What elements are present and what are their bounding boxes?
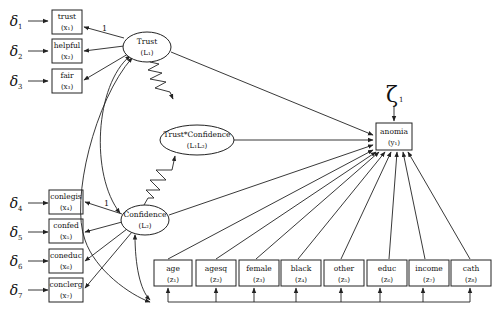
svg-text:Trust*Confidence: Trust*Confidence <box>164 130 231 139</box>
svg-text:(z₁): (z₁) <box>167 276 179 284</box>
covariate-agesq: agesq (z₂) <box>196 260 236 286</box>
path-trust-anomia <box>171 52 373 135</box>
path-other-anomia <box>341 152 391 259</box>
svg-text:3: 3 <box>18 83 22 91</box>
svg-text:trust: trust <box>58 12 76 21</box>
covariate-other: other (z₅) <box>324 260 364 286</box>
indicator-conlegis: conlegis (x₄) <box>49 190 83 214</box>
path-income-anomia <box>403 152 425 259</box>
svg-text:Trust: Trust <box>137 37 157 46</box>
svg-text:4: 4 <box>18 205 23 213</box>
indicator-confed: confed (x₅) <box>49 219 83 243</box>
svg-text:(x₁): (x₁) <box>61 24 73 32</box>
path-educ-anomia <box>389 152 397 259</box>
svg-text:(z₃): (z₃) <box>253 276 265 284</box>
svg-text:fair: fair <box>60 71 74 80</box>
svg-text:ζ: ζ <box>386 82 398 107</box>
svg-text:(L₁L₂): (L₁L₂) <box>187 142 208 150</box>
indicator-coneduc: coneduc (x₆) <box>49 249 83 273</box>
svg-text:income: income <box>415 264 443 273</box>
indicator-helpful: helpful (x₂) <box>52 39 82 63</box>
svg-text:5: 5 <box>18 234 22 242</box>
svg-text:1: 1 <box>18 23 22 31</box>
svg-text:female: female <box>246 264 272 273</box>
svg-text:(x₆): (x₆) <box>60 263 72 271</box>
covariate-black: black (z₄) <box>281 260 321 286</box>
indicator-trust: trust (x₁) <box>52 10 82 34</box>
svg-text:(x₂): (x₂) <box>61 53 73 61</box>
svg-text:1: 1 <box>399 96 403 104</box>
svg-text:cath: cath <box>463 264 480 273</box>
svg-text:δ: δ <box>10 195 18 211</box>
svg-text:7: 7 <box>18 292 22 300</box>
latent-trust-x-confidence: Trust*Confidence (L₁L₂) <box>160 125 234 155</box>
error-delta-4: δ 4 <box>10 195 48 213</box>
svg-text:anomia: anomia <box>380 127 408 136</box>
loading-fixed-1-trust: 1 <box>102 24 107 33</box>
svg-text:δ: δ <box>10 73 18 89</box>
svg-text:δ: δ <box>10 43 18 59</box>
svg-text:δ: δ <box>10 253 18 269</box>
svg-text:δ: δ <box>10 282 18 298</box>
latent-confidence: Confidence (L₂) <box>121 205 169 235</box>
svg-text:(z₅): (z₅) <box>338 276 350 284</box>
covariate-age: age (z₁) <box>154 260 192 286</box>
indicator-fair: fair (x₃) <box>52 69 82 93</box>
svg-text:(x₄): (x₄) <box>60 204 72 212</box>
disturbance-zeta: ζ 1 <box>386 82 403 121</box>
svg-text:agesq: agesq <box>205 264 228 273</box>
svg-text:(x₇): (x₇) <box>60 292 72 300</box>
svg-text:(L₂): (L₂) <box>139 222 152 230</box>
covariance-trust-covariates <box>81 58 150 302</box>
svg-text:age: age <box>166 264 180 273</box>
covariate-educ: educ (z₆) <box>367 260 407 286</box>
loading-trust-x2 <box>84 46 124 51</box>
latent-trust: Trust (L₁) <box>123 32 171 62</box>
indicator-conclerg: conclerg (x₇) <box>49 278 83 302</box>
error-delta-7: δ 7 <box>10 282 48 300</box>
error-delta-3: δ 3 <box>10 73 48 91</box>
error-delta-6: δ 6 <box>10 253 48 271</box>
svg-text:(z₂): (z₂) <box>210 276 222 284</box>
svg-text:6: 6 <box>18 263 23 271</box>
svg-text:(z₆): (z₆) <box>381 276 393 284</box>
sem-diagram: δ 1 δ 2 δ 3 δ 4 δ 5 δ 6 δ 7 trust (x₁) <box>0 0 499 316</box>
covariate-female: female (z₃) <box>239 260 279 286</box>
svg-text:coneduc: coneduc <box>50 251 82 260</box>
svg-text:(x₅): (x₅) <box>60 233 72 241</box>
error-delta-2: δ 2 <box>10 43 48 61</box>
svg-text:Confidence: Confidence <box>124 210 167 219</box>
svg-text:other: other <box>334 264 355 273</box>
svg-text:confed: confed <box>53 221 79 230</box>
path-cath-anomia <box>408 152 470 259</box>
svg-text:(z₇): (z₇) <box>423 276 435 284</box>
svg-text:(y₁): (y₁) <box>388 139 400 147</box>
error-delta-5: δ 5 <box>10 224 48 242</box>
svg-text:conlegis: conlegis <box>50 192 82 201</box>
covariate-covariance-bus <box>168 288 470 302</box>
loading-conf-x5 <box>85 222 122 232</box>
svg-text:(z₈): (z₈) <box>465 276 477 284</box>
svg-text:conclerg: conclerg <box>50 280 83 289</box>
svg-text:δ: δ <box>10 13 18 29</box>
covariance-confidence-covariates <box>135 235 150 300</box>
path-female-anomia <box>256 152 379 259</box>
svg-text:(z₄): (z₄) <box>295 276 307 284</box>
loading-conf-x7 <box>85 232 132 288</box>
svg-text:2: 2 <box>18 53 22 61</box>
svg-text:δ: δ <box>10 224 18 240</box>
svg-text:(L₁): (L₁) <box>141 49 154 57</box>
covariate-income: income (z₇) <box>409 260 449 286</box>
path-agesq-anomia <box>216 152 376 259</box>
zigzag-confidence-to-product <box>144 156 175 205</box>
svg-text:helpful: helpful <box>54 41 81 50</box>
path-black-anomia <box>298 152 385 259</box>
svg-text:educ: educ <box>378 264 396 273</box>
loading-trust-x3 <box>84 54 128 80</box>
svg-text:black: black <box>291 264 312 273</box>
covariate-cath: cath (z₈) <box>451 260 491 286</box>
covariance-trust-confidence <box>100 56 130 213</box>
loading-fixed-1-confidence: 1 <box>104 199 109 208</box>
error-delta-1: δ 1 <box>10 13 48 31</box>
svg-text:(x₃): (x₃) <box>61 83 73 91</box>
